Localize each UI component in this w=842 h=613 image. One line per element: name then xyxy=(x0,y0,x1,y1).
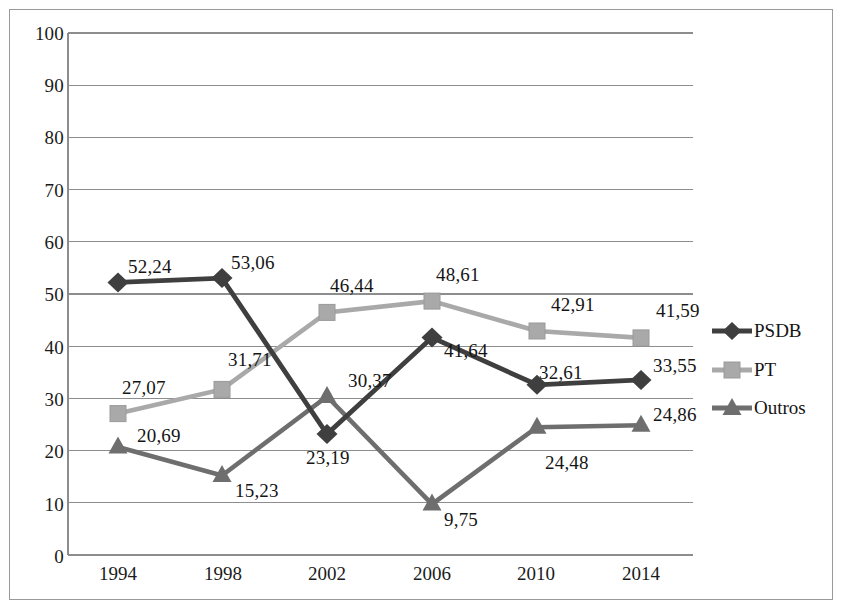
marker-outros-1994 xyxy=(109,437,128,454)
data-label-outros-1994: 20,69 xyxy=(137,425,181,447)
data-label-outros-1998: 15,23 xyxy=(235,480,279,502)
data-label-outros-2002: 30,37 xyxy=(348,370,392,392)
marker-pt-2006 xyxy=(424,293,440,309)
data-label-psdb-1998: 53,06 xyxy=(231,252,275,274)
marker-pt-1994 xyxy=(110,406,126,422)
marker-psdb-2014 xyxy=(631,370,652,390)
data-label-psdb-2006: 41,64 xyxy=(444,340,488,362)
data-label-outros-2010: 24,48 xyxy=(545,452,589,474)
data-label-psdb-2014: 33,55 xyxy=(653,355,697,377)
chart-figure: 100 90 80 70 60 50 40 30 20 10 0 1994 19… xyxy=(0,0,842,613)
data-label-pt-2002: 46,44 xyxy=(330,275,374,297)
marker-outros-2002 xyxy=(318,386,337,403)
data-label-outros-2006: 9,75 xyxy=(444,509,478,531)
marker-psdb-1994 xyxy=(108,272,129,292)
data-label-pt-2010: 42,91 xyxy=(551,294,595,316)
plot-area xyxy=(0,0,842,613)
legend-samples xyxy=(712,322,752,415)
series-outros xyxy=(109,386,651,511)
data-label-psdb-2002: 23,19 xyxy=(306,447,350,469)
data-label-pt-2014: 41,59 xyxy=(656,300,700,322)
gridlines xyxy=(68,33,693,555)
data-label-outros-2014: 24,86 xyxy=(653,404,697,426)
data-label-pt-2006: 48,61 xyxy=(436,264,480,286)
data-label-psdb-2010: 32,61 xyxy=(539,362,583,384)
marker-pt-2002 xyxy=(319,304,335,320)
legend-marker-pt-square xyxy=(724,362,740,378)
legend-item-pt[interactable]: PT xyxy=(754,359,776,381)
data-label-pt-1998: 31,71 xyxy=(228,349,272,371)
marker-pt-2014 xyxy=(633,330,649,346)
legend-item-outros[interactable]: Outros xyxy=(754,397,806,419)
marker-pt-1998 xyxy=(214,381,230,397)
data-label-pt-1994: 27,07 xyxy=(122,377,166,399)
marker-pt-2010 xyxy=(529,323,545,339)
legend-item-psdb[interactable]: PSDB xyxy=(754,320,802,342)
data-label-psdb-1994: 52,24 xyxy=(128,256,172,278)
legend-marker-psdb-diamond xyxy=(723,322,742,340)
